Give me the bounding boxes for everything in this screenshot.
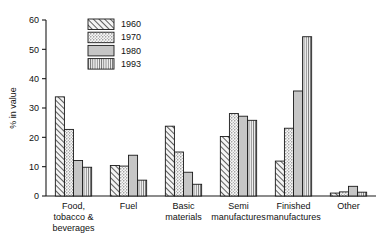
- legend-label-1980: 1980: [121, 46, 141, 56]
- bar: [74, 161, 83, 196]
- x-category-label: Basic: [172, 201, 195, 211]
- x-category-label: Other: [337, 201, 360, 211]
- y-tick-label: 40: [29, 74, 39, 84]
- x-category-label: Finished: [276, 201, 310, 211]
- x-category-label: Food,: [62, 201, 85, 211]
- x-category-label: manufactures: [211, 212, 266, 222]
- y-tick-label: 0: [34, 191, 39, 201]
- y-tick-label: 30: [29, 103, 39, 113]
- bar: [275, 161, 284, 196]
- y-tick-label: 60: [29, 15, 39, 25]
- chart-canvas: 0102030405060% in value Food,tobacco &be…: [0, 0, 388, 246]
- bar: [349, 186, 358, 196]
- bar: [358, 192, 367, 196]
- legend-swatch-1993: [88, 59, 114, 70]
- bar: [303, 37, 312, 196]
- legend-label-1960: 1960: [121, 19, 141, 29]
- x-category-label: materials: [165, 212, 202, 222]
- bar: [165, 126, 174, 196]
- bar: [193, 184, 202, 196]
- legend-swatch-1970: [88, 32, 114, 43]
- legend-swatch-1980: [88, 45, 114, 56]
- y-axis-label: % in value: [8, 87, 18, 129]
- bar: [294, 91, 303, 196]
- x-category-label: Fuel: [120, 201, 138, 211]
- bar: [248, 120, 257, 196]
- bar: [184, 172, 193, 196]
- x-category-label: tobacco &: [53, 212, 93, 222]
- bar: [83, 167, 92, 196]
- bar: [174, 152, 183, 196]
- legend-swatch-1960: [88, 19, 114, 30]
- bar: [220, 136, 229, 196]
- y-tick-label: 20: [29, 133, 39, 143]
- bar: [64, 129, 73, 196]
- y-tick-label: 10: [29, 162, 39, 172]
- bar: [339, 192, 348, 196]
- bar: [284, 128, 293, 196]
- bar: [239, 116, 248, 196]
- bar: [119, 166, 128, 196]
- y-tick-label: 50: [29, 45, 39, 55]
- x-category-label: Semi: [228, 201, 249, 211]
- bar: [110, 165, 119, 196]
- bar: [129, 155, 138, 196]
- bar-chart: 0102030405060% in value Food,tobacco &be…: [0, 0, 388, 246]
- legend-label-1970: 1970: [121, 32, 141, 42]
- bar: [229, 114, 238, 196]
- bar: [55, 97, 64, 196]
- bar: [138, 180, 147, 196]
- x-category-label: manufactures: [266, 212, 321, 222]
- legend-label-1993: 1993: [121, 59, 141, 69]
- x-category-label: beverages: [52, 223, 95, 233]
- bar: [330, 193, 339, 196]
